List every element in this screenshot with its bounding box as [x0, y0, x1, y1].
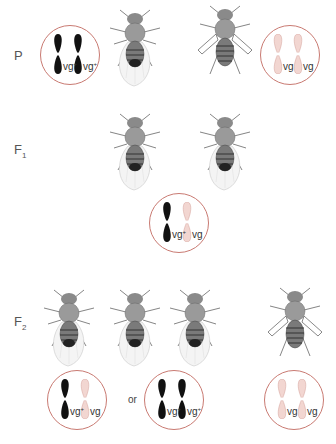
recessive-chromosome-icon [277, 379, 287, 419]
genotype-circle-f2-homozygous-dominant: vg+ vg+ [144, 370, 204, 430]
dominant-chromosome-icon [162, 202, 172, 242]
allele-label: vg [287, 406, 298, 417]
generation-label-f2: F2 [14, 314, 26, 332]
genotype-circle-f2-heterozygous: vg+ vg [47, 370, 107, 430]
vestigial-fly-icon [190, 4, 260, 84]
allele-label: vg [283, 61, 294, 72]
wild-type-fly-icon [190, 112, 260, 192]
wild-type-fly-icon [160, 288, 230, 368]
allele-label: vg [307, 406, 318, 417]
wild-type-fly-icon [34, 288, 104, 368]
wild-type-fly-icon [100, 8, 170, 88]
or-separator: or [128, 394, 137, 405]
recessive-chromosome-icon [293, 34, 303, 74]
dominant-chromosome-icon [60, 379, 70, 419]
recessive-chromosome-icon [297, 379, 307, 419]
generation-label-p: P [14, 48, 23, 63]
allele-label: vg+ [167, 406, 181, 417]
allele-label: vg+ [63, 61, 77, 72]
allele-label: vg [90, 406, 101, 417]
vestigial-fly-icon [260, 286, 330, 366]
allele-label: vg+ [83, 61, 97, 72]
wild-type-fly-icon [100, 112, 170, 192]
allele-label: vg [192, 229, 203, 240]
allele-label: vg [303, 61, 314, 72]
dominant-chromosome-icon [53, 34, 63, 74]
generation-label-f1: F1 [14, 142, 26, 160]
allele-label: vg+ [70, 406, 84, 417]
dominant-chromosome-icon [157, 379, 167, 419]
genotype-circle-p-vestigial: vg vg [260, 25, 320, 85]
allele-label: vg+ [172, 229, 186, 240]
genotype-circle-p-wildtype: vg+ vg+ [40, 25, 100, 85]
genotype-circle-f1-heterozygous: vg+ vg [149, 193, 209, 253]
allele-label: vg+ [187, 406, 201, 417]
genotype-circle-f2-homozygous-recessive: vg vg [264, 370, 324, 430]
recessive-chromosome-icon [273, 34, 283, 74]
